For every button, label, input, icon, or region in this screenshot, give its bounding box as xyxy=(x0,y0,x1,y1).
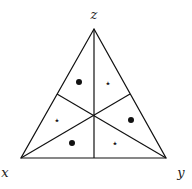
vertex-label-x: x xyxy=(1,165,9,180)
star-marker: ⋆ xyxy=(54,114,61,127)
vertex-label-z: z xyxy=(90,7,98,22)
triangle-diagram: ⋆ ⋆ ⋆ z x y xyxy=(0,0,192,189)
dot-marker xyxy=(69,140,75,146)
triangle-lines xyxy=(21,29,166,158)
dot-marker xyxy=(76,79,82,85)
star-marker: ⋆ xyxy=(112,137,119,150)
vertex-label-y: y xyxy=(176,165,185,180)
dot-marker xyxy=(128,117,134,123)
star-marker: ⋆ xyxy=(105,77,112,90)
